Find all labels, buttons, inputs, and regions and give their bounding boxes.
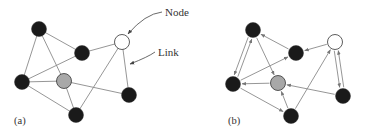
node-B-black <box>75 46 90 61</box>
node-B-black <box>289 46 304 61</box>
node-C-white <box>115 35 130 50</box>
link-D-A <box>238 39 252 77</box>
edge-group <box>234 34 343 111</box>
link-A-D <box>234 37 248 75</box>
link-G-E <box>281 91 288 108</box>
link-C-B <box>305 44 327 50</box>
node-F-black <box>336 89 351 104</box>
node-E-gray <box>271 76 286 91</box>
node-A-black <box>246 23 261 38</box>
network-diagram: (a) (b) NodeLink <box>0 0 366 136</box>
link-D-G <box>240 88 283 112</box>
node-C-white <box>328 35 343 50</box>
node-A-black <box>32 22 47 37</box>
node-E-gray <box>57 74 72 89</box>
annotation-arrow-link <box>130 52 155 64</box>
link-B-D <box>22 53 82 82</box>
node-D-black <box>15 75 30 90</box>
node-group <box>226 23 351 124</box>
link-C-F <box>122 42 129 95</box>
panel-label-b: (b) <box>228 115 241 127</box>
link-A-E <box>39 29 64 81</box>
node-group <box>15 22 137 123</box>
node-D-black <box>226 77 241 92</box>
annotation-label-link: Link <box>158 46 179 58</box>
node-G-black <box>284 109 299 124</box>
panel-a-undirected-graph: (a) <box>14 22 137 128</box>
panel-label-a: (a) <box>14 115 26 127</box>
link-A-E <box>257 38 275 75</box>
link-F-E <box>287 85 335 95</box>
link-E-D <box>242 83 270 84</box>
annotations: NodeLink <box>128 6 189 64</box>
edge-group <box>22 29 129 115</box>
node-F-black <box>122 88 137 103</box>
panel-b-directed-graph: (b) <box>226 23 351 128</box>
annotation-label-node: Node <box>165 6 189 18</box>
annotation-arrow-node <box>128 12 162 34</box>
link-A-D <box>22 29 39 82</box>
link-B-A <box>261 34 289 49</box>
node-G-black <box>69 108 84 123</box>
